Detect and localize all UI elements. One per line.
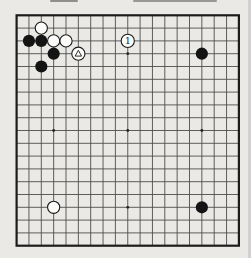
go-board: 1	[0, 0, 251, 258]
black-stone	[35, 35, 47, 47]
star-point	[126, 129, 129, 132]
black-stone	[23, 35, 35, 47]
go-diagram-page: 1	[0, 0, 251, 258]
star-point	[126, 206, 129, 209]
star-point	[126, 52, 129, 55]
star-point	[52, 129, 55, 132]
black-stone	[196, 48, 208, 60]
scan-artifact	[133, 0, 217, 2]
black-stone	[196, 201, 208, 213]
white-stone	[60, 35, 72, 47]
white-stone	[48, 35, 60, 47]
move-number-label: 1	[125, 36, 131, 46]
black-stone	[48, 48, 60, 60]
scan-artifact	[50, 0, 78, 2]
white-stone	[72, 47, 85, 60]
black-stone	[35, 60, 47, 72]
white-stone	[35, 22, 47, 34]
white-stone	[48, 201, 60, 213]
scan-edge-artifact	[248, 0, 251, 258]
star-point	[200, 129, 203, 132]
